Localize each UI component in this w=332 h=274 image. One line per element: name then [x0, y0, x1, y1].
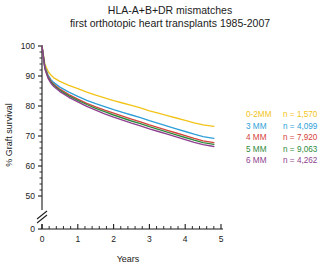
- legend-count-6mm: n = 4,262: [283, 156, 318, 165]
- legend-count-4mm: n = 7,920: [283, 133, 318, 142]
- y-tick-label: 100: [21, 41, 35, 51]
- legend-label-5mm: 5 MM: [246, 145, 267, 154]
- x-tick-label: 0: [40, 234, 45, 244]
- legend-count-5mm: n = 9,063: [283, 145, 318, 154]
- legend-label-4mm: 4 MM: [246, 133, 267, 142]
- y-axis-label: % Graft survival: [4, 103, 14, 167]
- x-axis-label: Years: [117, 254, 140, 264]
- survival-curve-5mm: [42, 46, 214, 144]
- x-tick-label: 3: [147, 234, 152, 244]
- legend-label-6mm: 6 MM: [246, 156, 267, 165]
- survival-chart-figure: HLA-A+B+DR mismatches first orthotopic h…: [0, 0, 332, 274]
- legend-label-3mm: 3 MM: [246, 122, 267, 131]
- y-tick-label: 90: [26, 71, 36, 81]
- y-tick-label: 80: [26, 101, 36, 111]
- chart-canvas: HLA-A+B+DR mismatches first orthotopic h…: [0, 0, 332, 274]
- y-tick-label: 70: [26, 131, 36, 141]
- y-tick-label: 0: [30, 224, 35, 234]
- chart-title-line-1: HLA-A+B+DR mismatches: [108, 4, 232, 16]
- chart-title-line-2: first orthotopic heart transplants 1985-…: [70, 17, 270, 29]
- x-tick-label: 5: [219, 234, 224, 244]
- x-tick-label: 1: [75, 234, 80, 244]
- y-tick-label: 60: [26, 161, 36, 171]
- legend-count-0-2mm: n = 1,570: [283, 110, 318, 119]
- legend-count-3mm: n = 4,099: [283, 122, 318, 131]
- x-tick-label: 2: [111, 234, 116, 244]
- chart-legend: 0-2MMn = 1,5703 MMn = 4,0994 MMn = 7,920…: [246, 110, 318, 165]
- survival-curve-4mm: [42, 46, 214, 143]
- survival-curve-3mm: [42, 46, 214, 138]
- chart-title: HLA-A+B+DR mismatches first orthotopic h…: [70, 4, 270, 29]
- legend-label-0-2mm: 0-2MM: [246, 110, 272, 119]
- y-tick-label: 50: [26, 191, 36, 201]
- chart-axes: [37, 46, 223, 229]
- x-tick-label: 4: [183, 234, 188, 244]
- survival-curves: [42, 46, 214, 147]
- survival-curve-6mm: [42, 46, 214, 147]
